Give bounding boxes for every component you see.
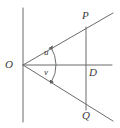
line-group [23, 8, 113, 122]
geometry-canvas [0, 0, 120, 128]
label-angle-v: v [44, 68, 48, 77]
label-point-q: Q [82, 110, 90, 121]
geometry-figure: O P D Q u v [0, 0, 120, 128]
label-point-d: D [89, 67, 97, 78]
label-vertex-o: O [5, 59, 13, 70]
ray-oq-lower [23, 65, 113, 121]
label-angle-u: u [44, 48, 49, 57]
label-point-p: P [82, 10, 89, 21]
ray-op-upper [23, 13, 113, 65]
